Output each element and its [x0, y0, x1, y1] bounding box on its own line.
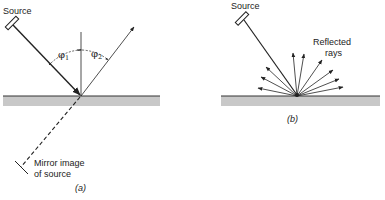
reflected-label-line1: Reflected: [313, 37, 351, 47]
reflected-ray-a: [81, 27, 134, 96]
rough-surface-b: [221, 96, 380, 106]
panel-b-diffuse: Source Reflected rays (b): [221, 1, 380, 124]
mirror-label-line1: Mirror image: [34, 158, 85, 168]
panel-a-specular: Source φ1 φ2 Mirror image of source (a): [3, 6, 160, 193]
source-label-b: Source: [231, 1, 260, 11]
mirror-label-line2: of source: [34, 169, 71, 179]
reflected-rays-b: [258, 53, 343, 96]
incident-ray-a: [13, 25, 80, 95]
caption-b: (b): [287, 114, 298, 124]
incident-ray-b: [244, 20, 297, 95]
angle-phi2-label: φ2: [91, 48, 102, 61]
mirror-image-dashed-line: [21, 97, 80, 167]
angle-phi1-label: φ1: [58, 49, 69, 62]
source-icon-a: [5, 16, 18, 29]
caption-a: (a): [75, 183, 86, 193]
reflection-point-b: [295, 93, 299, 97]
mirror-image-source-icon: [15, 161, 28, 174]
mirror-surface-a: [3, 96, 160, 106]
source-label-a: Source: [3, 6, 32, 16]
reflected-label-line2: rays: [325, 48, 343, 58]
reflection-diagram: Source φ1 φ2 Mirror image of source (a) …: [0, 0, 385, 200]
